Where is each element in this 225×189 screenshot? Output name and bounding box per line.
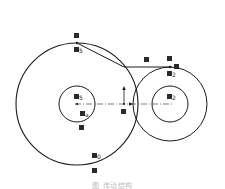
label-top-right	[167, 56, 172, 61]
figure-caption: 图 传动结构	[0, 180, 225, 189]
label-inner-left: 5	[74, 94, 83, 101]
label-bottom-left: 0	[92, 153, 101, 160]
belt-diagonal-line	[77, 43, 124, 67]
svg-text:2: 2	[172, 71, 176, 78]
label-center-mid	[121, 109, 126, 114]
label-top-left-sub: 5	[74, 47, 83, 54]
label-top-right-sub: 2	[167, 71, 176, 78]
label-inner-right: 2	[167, 94, 176, 101]
svg-text:5: 5	[79, 47, 83, 54]
label-inner-left-low2	[79, 125, 84, 130]
label-inner-left-low: a	[80, 111, 89, 118]
arrow-up-icon	[122, 86, 125, 90]
label-top-right-end	[174, 64, 179, 69]
svg-text:5: 5	[79, 94, 83, 101]
top-right-point	[169, 66, 171, 68]
svg-text:0: 0	[97, 153, 101, 160]
arrow-right-icon	[129, 102, 133, 105]
mid-point	[123, 103, 125, 105]
svg-text:a: a	[85, 111, 89, 118]
svg-text:2: 2	[172, 94, 176, 101]
label-belt-mid	[144, 57, 149, 62]
transmission-diagram: 5 5 a 2 2 0	[0, 0, 225, 189]
label-top-left	[74, 33, 79, 38]
label-bottom-left2	[92, 168, 97, 173]
top-left-point	[76, 42, 78, 44]
arrow-left-left-icon	[75, 103, 78, 105]
